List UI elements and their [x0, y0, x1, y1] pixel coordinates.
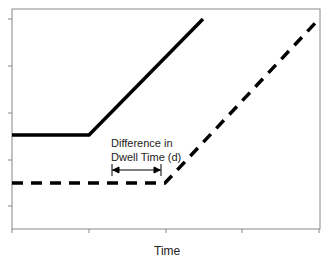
annotation-line-2: Dwell Time (d)	[111, 151, 181, 163]
solid-series-line	[12, 19, 203, 135]
chart-plot	[0, 0, 323, 262]
x-axis-ticks	[12, 229, 319, 233]
y-axis-ticks	[8, 19, 12, 206]
x-axis-label: Time	[154, 244, 180, 258]
dwell-time-arrow	[112, 164, 161, 176]
annotation-line-1: Difference in	[111, 137, 173, 149]
plot-frame	[12, 9, 320, 229]
